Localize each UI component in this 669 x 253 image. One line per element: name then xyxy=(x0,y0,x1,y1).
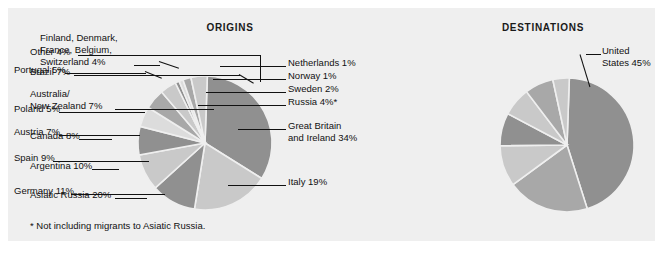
origins-label-russia: Russia 4%* xyxy=(288,96,337,108)
origins-label-great-britain-line2: and Ireland 34% xyxy=(288,132,357,144)
destinations-label-argentina: Argentina 10% xyxy=(30,160,92,172)
destinations-label-other: Other 4% xyxy=(30,46,70,58)
origins-label-sweden: Sweden 2% xyxy=(288,83,339,95)
destinations-pie-svg xyxy=(492,70,642,220)
leader-line-netherlands-h xyxy=(220,66,286,67)
destinations-label-brazil: Brazil 7% xyxy=(30,66,70,78)
origins-pie-chart xyxy=(130,68,280,218)
destinations-chart-title: DESTINATIONS xyxy=(463,22,623,33)
leader-line-other-v xyxy=(260,55,261,82)
leader-line-australia-h xyxy=(115,109,214,110)
leader-line-brazil-h xyxy=(74,75,240,76)
leader-line-asiatic-russia-h xyxy=(115,198,147,199)
origins-label-italy: Italy 19% xyxy=(288,176,327,188)
origins-pie-svg xyxy=(130,68,280,218)
leader-line-finland-group-h xyxy=(134,65,160,66)
leader-line-sweden-h xyxy=(206,92,286,93)
destinations-label-asiatic-russia: Asiatic Russia 20% xyxy=(30,189,111,201)
leader-line-russia-h xyxy=(198,105,286,106)
destinations-label-australia-line1: Australia/ xyxy=(30,88,70,100)
leader-line-italy-h xyxy=(228,185,286,186)
origins-chart-title: ORIGINS xyxy=(160,22,300,33)
origins-label-finland-group-line1: Finland, Denmark, xyxy=(40,32,118,44)
origins-label-netherlands: Netherlands 1% xyxy=(288,57,356,69)
footnote-text: * Not including migrants to Asiatic Russ… xyxy=(30,220,205,231)
leader-line-great-britain-h xyxy=(238,129,286,130)
leader-line-other-h xyxy=(78,55,261,56)
leader-line-portugal-h xyxy=(65,73,146,74)
destinations-label-canada: Canada 8% xyxy=(30,130,80,142)
destinations-pie-chart xyxy=(492,70,642,220)
origins-label-great-britain-line1: Great Britain xyxy=(288,120,341,132)
figure-panel: ORIGINS DESTINATIONS Finland, Denmark, F… xyxy=(8,8,655,241)
leader-line-united-states-h xyxy=(586,54,601,55)
destinations-label-united-states-line1: United xyxy=(602,45,629,57)
destinations-label-united-states-line2: States 45% xyxy=(602,57,651,69)
leader-line-argentina-h xyxy=(92,169,119,170)
origins-label-norway: Norway 1% xyxy=(288,70,337,82)
leader-line-canada-h xyxy=(79,139,112,140)
destinations-label-australia-line2: New Zealand 7% xyxy=(30,100,102,112)
